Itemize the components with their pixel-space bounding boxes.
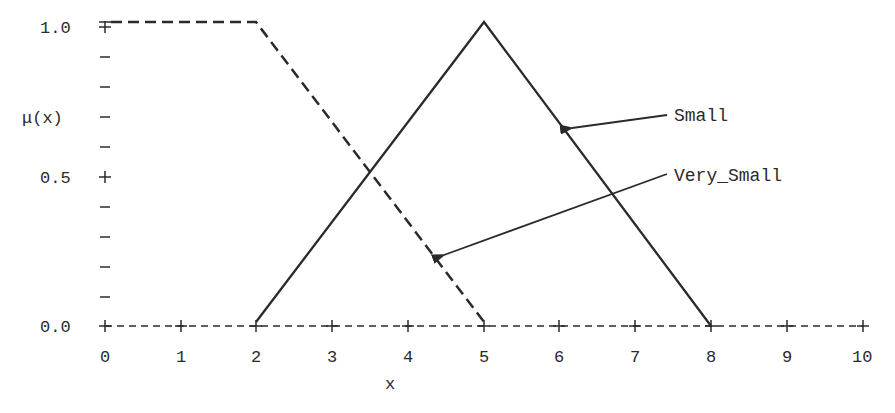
- y-tick-label-1-0: 1.0: [40, 19, 71, 38]
- x-tick-label-6: 6: [554, 348, 564, 367]
- very-small-annotation-arrow: [444, 174, 667, 255]
- series-small-line: [256, 22, 711, 326]
- small-annotation-arrow: [572, 115, 667, 128]
- x-tick-label-2: 2: [251, 348, 261, 367]
- y-tick-label-0-5: 0.5: [40, 169, 71, 188]
- legend-label-very-small: Very_Small: [674, 166, 782, 186]
- x-tick-label-0: 0: [100, 348, 110, 367]
- x-tick-label-4: 4: [403, 348, 413, 367]
- y-axis-label: μ(x): [22, 109, 63, 128]
- y-tick-label-0-0: 0.0: [40, 318, 71, 337]
- series-very-small-line: [111, 22, 484, 322]
- x-tick-label-5: 5: [479, 348, 489, 367]
- x-axis-label: x: [385, 375, 395, 394]
- x-tick-label-1: 1: [176, 348, 186, 367]
- fuzzy-membership-chart: 1.0 0.5 0.0 μ(x) 0 1 2 3 4 5 6 7 8 9 10 …: [0, 0, 895, 413]
- x-tick-label-10: 10: [852, 348, 872, 367]
- x-tick-label-3: 3: [327, 348, 337, 367]
- x-tick-label-7: 7: [630, 348, 640, 367]
- legend-label-small: Small: [674, 106, 728, 126]
- x-tick-label-9: 9: [782, 348, 792, 367]
- y-axis-ticks: [99, 21, 111, 297]
- x-tick-label-8: 8: [706, 348, 716, 367]
